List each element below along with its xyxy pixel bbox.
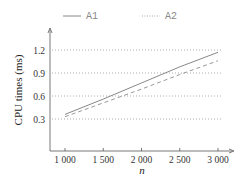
y-axis-title: CPU times (ms) <box>12 54 25 125</box>
series-a1-line <box>65 52 218 114</box>
series-a2-line <box>65 61 218 117</box>
x-tick-label: 2 500 <box>169 155 191 165</box>
x-axis-ticks: 1 0001 5002 0002 5003 000 <box>54 148 229 165</box>
legend-a1-label: A1 <box>86 11 98 22</box>
x-axis-title: n <box>139 164 145 176</box>
legend: A1 A2 <box>63 11 177 22</box>
y-tick-label: 1.2 <box>33 46 45 56</box>
y-tick-label: 0.6 <box>33 92 45 102</box>
x-tick-label: 1 000 <box>54 155 76 165</box>
legend-a2-label: A2 <box>165 11 177 22</box>
y-tick-label: 0.9 <box>33 69 45 79</box>
line-chart: A1 A2 0.30.60.91.2 1 0001 5002 0002 5003… <box>0 0 247 179</box>
y-tick-label: 0.3 <box>33 115 45 125</box>
x-tick-label: 3 000 <box>207 155 229 165</box>
y-axis-ticks: 0.30.60.91.2 <box>33 46 45 125</box>
series-lines <box>65 52 218 116</box>
x-tick-label: 1 500 <box>93 155 115 165</box>
